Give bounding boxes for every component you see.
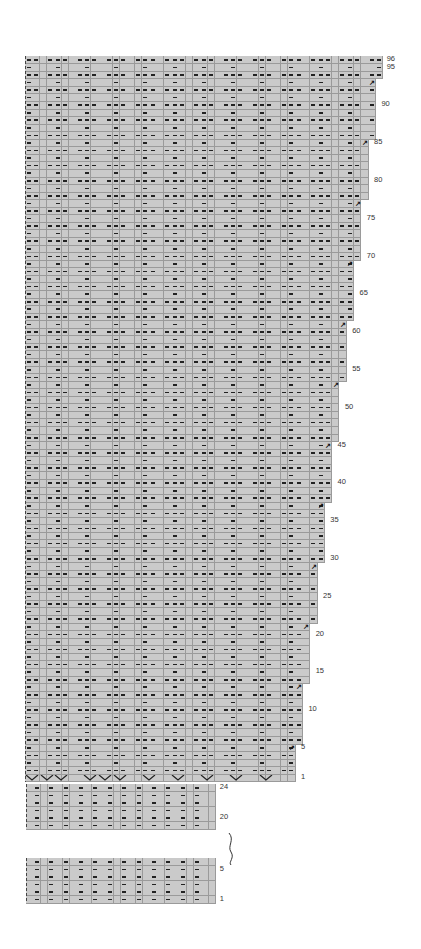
purl-symbol [202,694,206,696]
purl-symbol [231,97,235,99]
purl-symbol [56,119,60,121]
purl-symbol [253,724,257,726]
purl-symbol [114,112,118,114]
purl-symbol [64,795,68,797]
purl-symbol [107,603,111,605]
purl-symbol [143,82,147,84]
purl-symbol [107,331,111,333]
purl-symbol [27,278,31,280]
decrease-symbol: ↗ [303,623,309,630]
purl-symbol [370,104,374,106]
purl-symbol [289,739,293,741]
decrease-symbol: ↗ [296,683,302,690]
purl-symbol [166,787,170,789]
purl-symbol [122,884,126,886]
purl-symbol [48,709,52,711]
purl-symbol [136,74,140,76]
purl-symbol [231,361,235,363]
purl-symbol [355,59,359,61]
purl-symbol [78,316,82,318]
purl-symbol [253,119,257,121]
purl-symbol [319,74,323,76]
purl-symbol [224,240,228,242]
purl-symbol [85,157,89,159]
purl-symbol [231,104,235,106]
purl-symbol [64,869,68,871]
purl-symbol [56,528,60,530]
purl-symbol [173,603,177,605]
purl-symbol [348,293,352,295]
purl-symbol [180,59,184,61]
purl-symbol [27,293,31,295]
purl-symbol [173,482,177,484]
purl-symbol [121,634,125,636]
purl-symbol [231,324,235,326]
purl-symbol [78,59,82,61]
purl-symbol [92,452,96,454]
purl-symbol [165,679,169,681]
row-label: 95 [387,63,395,71]
purl-symbol [165,528,169,530]
purl-symbol [78,331,82,333]
purl-symbol [297,74,301,76]
purl-symbol [143,308,147,310]
purl-symbol [355,135,359,137]
chart-cell [295,721,303,729]
purl-symbol [93,861,97,863]
purl-symbol [114,188,118,190]
purl-symbol [56,747,60,749]
purl-symbol [267,755,271,757]
purl-symbol [85,369,89,371]
purl-symbol [92,664,96,666]
purl-symbol [64,810,68,812]
purl-symbol [173,165,177,167]
purl-symbol [143,248,147,250]
purl-symbol [180,770,184,772]
purl-symbol [202,59,206,61]
purl-symbol [209,467,213,469]
purl-symbol [56,135,60,137]
purl-symbol [165,135,169,137]
purl-symbol [260,195,264,197]
purl-symbol [311,89,315,91]
purl-symbol [180,150,184,152]
row-label: 1 [301,773,305,781]
purl-symbol [238,543,242,545]
purl-symbol [27,59,31,61]
chart-cell [354,222,362,230]
purl-symbol [224,256,228,258]
chart-cell [354,215,362,223]
purl-symbol [289,89,293,91]
purl-symbol [48,528,52,530]
purl-symbol [114,142,118,144]
purl-symbol [267,724,271,726]
purl-symbol [92,679,96,681]
purl-symbol [114,308,118,310]
purl-symbol [34,286,38,288]
purl-symbol [173,596,177,598]
purl-symbol [56,286,60,288]
purl-symbol [231,377,235,379]
purl-symbol [63,119,67,121]
purl-symbol [143,286,147,288]
purl-symbol [34,497,38,499]
purl-symbol [63,694,67,696]
purl-symbol [231,172,235,174]
purl-symbol [56,293,60,295]
purl-symbol [165,558,169,560]
purl-symbol [114,543,118,545]
purl-symbol [253,346,257,348]
increase-symbol [40,774,54,781]
purl-symbol [114,369,118,371]
purl-symbol [137,861,141,863]
purl-symbol [27,157,31,159]
purl-symbol [297,467,301,469]
decrease-symbol: ↗ [355,200,361,207]
purl-symbol [231,339,235,341]
purl-symbol [85,119,89,121]
purl-symbol [166,861,170,863]
purl-symbol [253,407,257,409]
purl-symbol [260,157,264,159]
purl-symbol [121,180,125,182]
purl-symbol [56,384,60,386]
